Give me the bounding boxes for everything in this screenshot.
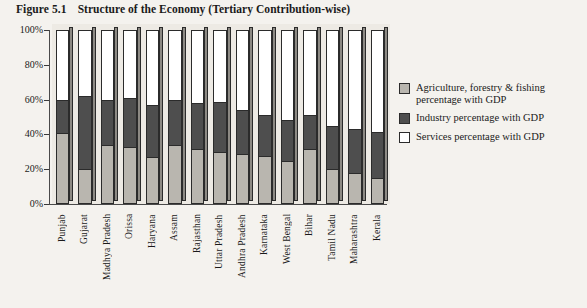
stacked-bar[interactable] — [236, 30, 250, 204]
legend-label: Industry percentage with GDP — [416, 112, 544, 124]
segment-services — [327, 31, 339, 126]
stacked-bar[interactable] — [56, 30, 70, 204]
figure-title-row: Figure 5.1 Structure of the Economy (Ter… — [16, 3, 350, 15]
x-category-label: Gujarat — [79, 214, 89, 304]
x-category-label: Karnataka — [259, 214, 269, 304]
y-tick-label: 40% — [25, 129, 43, 139]
stacked-bar[interactable] — [213, 30, 227, 204]
x-category-label: Orissa — [124, 214, 134, 304]
bar-column — [146, 24, 160, 204]
bar-side-face — [384, 27, 388, 201]
y-tick-mark — [44, 65, 49, 66]
segment-agriculture — [237, 155, 249, 203]
y-tick-mark — [44, 134, 49, 135]
segment-agriculture — [79, 170, 91, 203]
segment-agriculture — [372, 179, 384, 203]
legend-swatch-industry — [399, 113, 410, 124]
segment-agriculture — [124, 148, 136, 203]
bar-side-face — [227, 27, 231, 201]
bar-side-face — [182, 27, 186, 201]
stacked-bar[interactable] — [258, 30, 272, 204]
bar-side-face — [159, 27, 163, 201]
segment-industry — [147, 105, 159, 158]
bar-side-face — [204, 27, 208, 201]
segment-services — [57, 31, 69, 100]
segment-agriculture — [349, 174, 361, 203]
segment-services — [214, 31, 226, 102]
bar-column — [56, 24, 70, 204]
x-axis-category-labels: PunjabGujaratMadhya PradeshOrissaHaryana… — [52, 214, 390, 306]
bar-side-face — [362, 27, 366, 201]
segment-services — [79, 31, 91, 96]
x-category-label: Uttar Pradesh — [214, 214, 224, 304]
bar-column — [78, 24, 92, 204]
segment-agriculture — [304, 150, 316, 203]
segment-industry — [304, 115, 316, 149]
chart-legend: Agriculture, forestry & fishing percenta… — [399, 82, 585, 150]
bar-column — [281, 24, 295, 204]
legend-item-services[interactable]: Services percentage with GDP — [399, 131, 585, 143]
y-tick-label: 100% — [20, 25, 43, 35]
segment-industry — [237, 110, 249, 155]
segment-agriculture — [169, 146, 181, 203]
stacked-bar[interactable] — [348, 30, 362, 204]
legend-item-agriculture[interactable]: Agriculture, forestry & fishing percenta… — [399, 82, 585, 105]
stacked-bar[interactable] — [101, 30, 115, 204]
bar-column — [326, 24, 340, 204]
bar-side-face — [137, 27, 141, 201]
y-tick-label: 20% — [25, 164, 43, 174]
y-tick-label: 80% — [25, 60, 43, 70]
segment-agriculture — [259, 157, 271, 203]
y-tick-mark — [44, 100, 49, 101]
x-category-label: Rajasthan — [192, 214, 202, 304]
segment-industry — [372, 132, 384, 178]
figure-container: Figure 5.1 Structure of the Economy (Ter… — [0, 0, 587, 308]
stacked-bar[interactable] — [78, 30, 92, 204]
segment-services — [259, 31, 271, 115]
bar-column — [258, 24, 272, 204]
segment-agriculture — [147, 158, 159, 203]
bar-side-face — [69, 27, 73, 201]
x-category-label: Kerala — [372, 214, 382, 304]
bar-column — [348, 24, 362, 204]
segment-agriculture — [282, 162, 294, 203]
stacked-bar[interactable] — [326, 30, 340, 204]
segment-industry — [169, 100, 181, 146]
segment-agriculture — [327, 170, 339, 203]
stacked-bar[interactable] — [191, 30, 205, 204]
segment-agriculture — [57, 134, 69, 203]
segment-industry — [124, 98, 136, 148]
segment-industry — [349, 129, 361, 174]
segment-services — [192, 31, 204, 103]
legend-item-industry[interactable]: Industry percentage with GDP — [399, 112, 585, 124]
segment-services — [304, 31, 316, 115]
y-axis-line — [49, 30, 50, 204]
legend-label: Services percentage with GDP — [416, 131, 545, 143]
bar-column — [213, 24, 227, 204]
bar-side-face — [294, 27, 298, 201]
stacked-bar[interactable] — [281, 30, 295, 204]
x-axis-line — [49, 204, 387, 205]
bar-column — [236, 24, 250, 204]
x-category-label: Assam — [169, 214, 179, 304]
stacked-bar[interactable] — [303, 30, 317, 204]
x-category-label: Maharashtra — [349, 214, 359, 304]
stacked-bar[interactable] — [371, 30, 385, 204]
segment-services — [102, 31, 114, 100]
stacked-bar[interactable] — [146, 30, 160, 204]
plot-area: 0%20%40%60%80%100% — [0, 24, 400, 214]
stacked-bar[interactable] — [168, 30, 182, 204]
segment-industry — [102, 100, 114, 146]
segment-services — [124, 31, 136, 98]
bar-column — [191, 24, 205, 204]
y-tick-mark — [44, 30, 49, 31]
x-category-label: Madhya Pradesh — [102, 214, 112, 304]
segment-industry — [192, 103, 204, 149]
bar-column — [101, 24, 115, 204]
bar-column — [168, 24, 182, 204]
stacked-bar[interactable] — [123, 30, 137, 204]
bar-side-face — [317, 27, 321, 201]
segment-industry — [79, 96, 91, 170]
segment-services — [349, 31, 361, 129]
segment-services — [237, 31, 249, 110]
